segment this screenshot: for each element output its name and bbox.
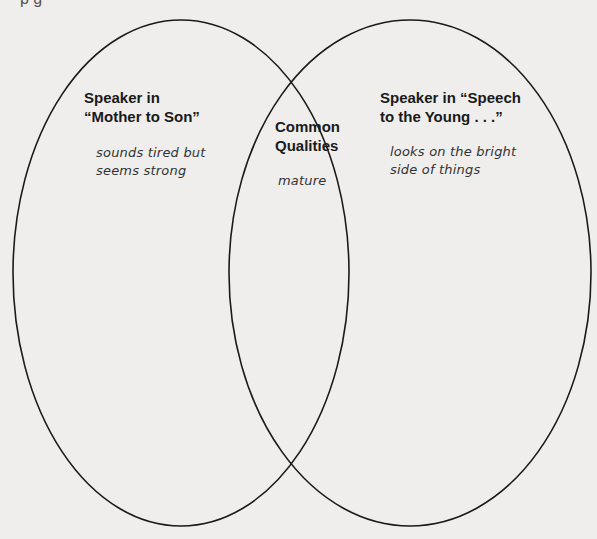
right-circle-title: Speaker in “Speech to the Young . . .” (380, 88, 521, 126)
left-circle-note: sounds tired but seems strong (96, 144, 206, 180)
venn-circles (0, 0, 597, 539)
overlap-note: mature (278, 172, 327, 190)
left-circle-title: Speaker in “Mother to Son” (84, 88, 200, 126)
overlap-title: Common Qualities (275, 117, 340, 155)
venn-diagram: p g Speaker in “Mother to Son” sounds ti… (0, 0, 597, 539)
right-circle-note: looks on the bright side of things (390, 143, 516, 179)
